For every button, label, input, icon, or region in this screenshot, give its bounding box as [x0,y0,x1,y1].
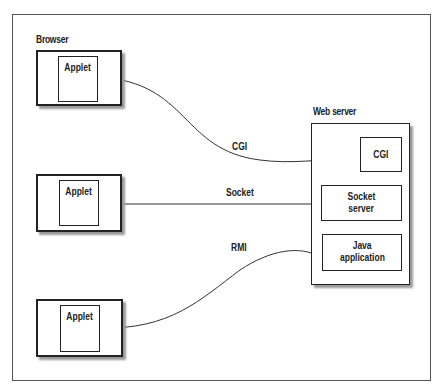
socket-server-box: Socket server [321,185,402,221]
cgi-box-label: CGI [373,149,388,161]
java-application-line1: Java [353,240,372,252]
cgi-box: CGI [360,137,402,172]
rmi-connection-line [100,251,320,329]
rmi-connection-label: RMI [231,242,247,253]
applet-label-2: Applet [66,186,92,198]
cgi-connection-label: CGI [232,141,247,152]
socket-connection-label: Socket [226,187,254,198]
applet-label-1: Applet [65,62,91,74]
applet-box-3: Applet [60,305,100,352]
java-application-box: Java application [322,234,402,271]
applet-box-1: Applet [58,56,98,102]
socket-server-line1: Socket [348,191,376,203]
web-server-label: Web server [313,106,356,117]
java-application-line2: application [340,252,385,264]
applet-box-2: Applet [59,180,99,226]
socket-server-line2: server [349,203,375,215]
browser-label: Browser [36,34,68,45]
applet-label-3: Applet [67,311,93,323]
